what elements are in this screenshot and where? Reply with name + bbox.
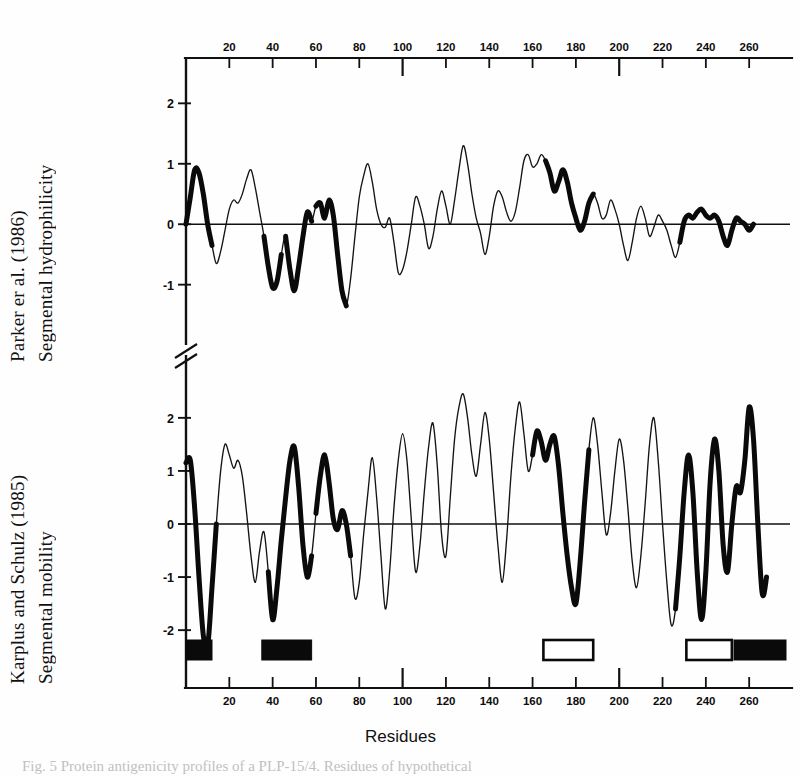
bottom-axis-tick-label: 160 <box>523 695 542 707</box>
data-trace-emphasis <box>264 236 281 288</box>
top-axis-tick-label: 240 <box>696 41 715 53</box>
epitope-bar-open <box>686 640 731 660</box>
top-axis-tick-label: 80 <box>353 41 366 53</box>
epitope-bar-filled <box>734 640 786 660</box>
data-trace-emphasis <box>186 168 212 245</box>
y-axis-tick-label: 2 <box>167 412 174 426</box>
data-trace-emphasis <box>546 161 594 231</box>
y-axis-tick-label: 0 <box>167 218 174 232</box>
y-axis-tick-label: 1 <box>167 158 174 172</box>
data-trace-emphasis <box>676 407 767 620</box>
top-axis-tick-label: 60 <box>310 41 323 53</box>
figure-caption: Fig. 5 Protein antigenicity profiles of … <box>22 758 791 775</box>
bottom-axis-tick-label: 20 <box>223 695 236 707</box>
epitope-bar-filled <box>262 640 312 660</box>
y-axis-tick-label: -1 <box>163 571 174 585</box>
data-trace-emphasis <box>533 431 589 605</box>
bottom-axis-tick-label: 180 <box>566 695 585 707</box>
panel-bottom: -2-1012 <box>163 394 790 650</box>
data-trace-emphasis <box>680 209 754 245</box>
y-axis-tick-label: -1 <box>163 279 174 293</box>
bottom-axis-tick-label: 220 <box>653 695 672 707</box>
figure-root: Parker er al. (1986) Segmental hydrophil… <box>0 0 801 776</box>
top-axis-tick-label: 260 <box>740 41 759 53</box>
top-axis-tick-label: 100 <box>393 41 412 53</box>
bottom-axis-tick-label: 120 <box>436 695 455 707</box>
top-axis-tick-label: 20 <box>223 41 236 53</box>
top-axis-tick-label: 220 <box>653 41 672 53</box>
data-trace-emphasis <box>186 457 216 649</box>
top-axis-tick-label: 40 <box>266 41 279 53</box>
panel-top: -1012 <box>163 97 790 306</box>
x-axis-label: Residues <box>0 727 801 747</box>
bottom-axis-tick-label: 240 <box>696 695 715 707</box>
y-axis-tick-label: -2 <box>163 624 174 638</box>
top-axis-tick-label: 160 <box>523 41 542 53</box>
top-axis-tick-label: 120 <box>436 41 455 53</box>
top-axis-tick-label: 200 <box>610 41 629 53</box>
bottom-axis-tick-label: 260 <box>740 695 759 707</box>
top-axis-tick-label: 180 <box>566 41 585 53</box>
bottom-axis-tick-label: 200 <box>610 695 629 707</box>
data-trace-emphasis <box>316 200 346 306</box>
bottom-axis-tick-label: 60 <box>310 695 323 707</box>
y-axis-tick-label: 2 <box>167 97 174 111</box>
epitope-bar-filled <box>186 640 212 660</box>
top-axis-tick-label: 140 <box>480 41 499 53</box>
bottom-axis-tick-label: 100 <box>393 695 412 707</box>
bottom-axis-tick-label: 140 <box>480 695 499 707</box>
data-trace-emphasis <box>268 446 311 620</box>
y-axis-tick-label: 1 <box>167 465 174 479</box>
bottom-axis-tick-label: 40 <box>266 695 279 707</box>
plot-canvas: 2040608010012014016018020022024026020406… <box>0 0 801 776</box>
epitope-bar-open <box>543 640 593 660</box>
bottom-axis-tick-label: 80 <box>353 695 366 707</box>
data-trace-emphasis <box>316 455 351 556</box>
y-axis-tick-label: 0 <box>167 518 174 532</box>
